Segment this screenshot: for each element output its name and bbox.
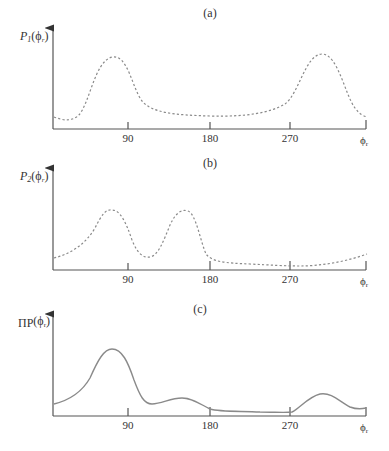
- x-axis-label: ϕr: [360, 275, 369, 289]
- x-axis-label: ϕr: [360, 421, 369, 435]
- tick-label-180: 180: [202, 132, 219, 144]
- panel-title: (a): [203, 6, 216, 20]
- tick-label-90: 90: [123, 132, 135, 144]
- y-axis-label: P1(ϕr): [19, 29, 48, 44]
- panel-b: (b) P2(ϕr) 90 180 270 ϕr: [19, 156, 369, 289]
- panel-a: (a) P1(ϕr) 90 180 270 ϕr: [19, 6, 369, 148]
- tick-label-270: 270: [282, 273, 299, 285]
- curve-product: [54, 349, 366, 412]
- curve-p1: [54, 54, 367, 120]
- y-axis-label: ΠP(ϕr): [18, 314, 50, 330]
- figure-canvas: (a) P1(ϕr) 90 180 270 ϕr (b) P2(ϕr) 9: [0, 0, 389, 451]
- tick-label-180: 180: [202, 419, 219, 431]
- panel-c: (c) ΠP(ϕr) 90 180 270 ϕr: [18, 302, 369, 435]
- tick-label-270: 270: [282, 132, 299, 144]
- tick-label-180: 180: [202, 273, 219, 285]
- panel-title: (c): [193, 302, 206, 316]
- panel-title: (b): [203, 156, 217, 170]
- svg-text:P1(ϕr): P1(ϕr): [19, 29, 48, 44]
- x-axis-label: ϕr: [360, 134, 369, 148]
- svg-text:P2(ϕr): P2(ϕr): [19, 169, 48, 184]
- tick-label-270: 270: [282, 419, 299, 431]
- tick-label-90: 90: [123, 273, 135, 285]
- curve-p2: [54, 210, 367, 266]
- tick-label-90: 90: [123, 419, 135, 431]
- y-axis-label: P2(ϕr): [19, 169, 48, 184]
- svg-text:ΠP(ϕr): ΠP(ϕr): [18, 314, 50, 330]
